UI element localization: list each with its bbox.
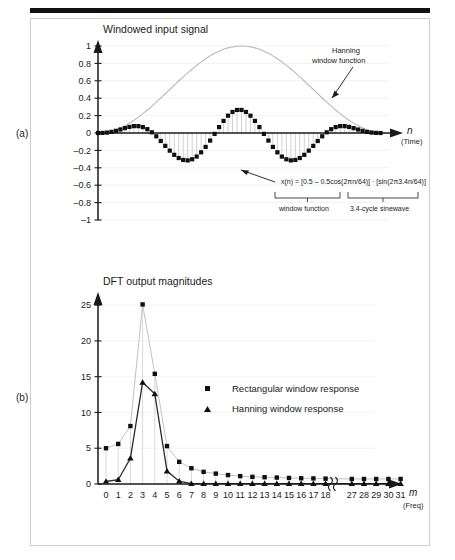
panel-b-svg: 2520151050 01234567891011121314151617182…	[35, 272, 430, 544]
data-point	[360, 129, 364, 133]
rect-marker	[323, 476, 327, 480]
x-tick-label: 27	[347, 490, 357, 500]
data-point	[109, 130, 113, 134]
panel-a-x-axis-sub: (Time)	[401, 137, 423, 146]
data-point	[284, 157, 288, 161]
panel-a-y-tick-labels: 10.80.60.40.20–0.2–0.4–0.6–0.8–1	[73, 41, 91, 225]
rect-marker	[262, 475, 266, 479]
panel-b-x-axis-sub: (Freq)	[403, 501, 424, 510]
data-point	[378, 131, 382, 135]
rect-marker	[153, 372, 157, 376]
x-tick-label: 8	[201, 490, 206, 500]
y-tick-label: –0.6	[73, 180, 91, 190]
data-point	[316, 139, 320, 143]
data-point	[212, 132, 216, 136]
rect-marker	[238, 474, 242, 478]
y-axis-arrowhead	[94, 292, 103, 305]
rect-marker	[275, 475, 279, 479]
figure-root: (a) (b) 10.80.60.40.20–0.2–0.4–0.6–0.8–1…	[0, 0, 455, 560]
rect-marker	[250, 475, 254, 479]
rect-marker	[287, 476, 291, 480]
y-tick-label: 0.6	[78, 76, 91, 86]
data-point	[159, 139, 163, 143]
x-tick-label: 11	[236, 490, 245, 500]
x-tick-label: 13	[260, 490, 270, 500]
rect-marker	[177, 460, 181, 464]
y-tick-label: 15	[81, 372, 91, 382]
y-tick-label: –0.8	[73, 198, 91, 208]
data-point	[141, 125, 145, 129]
x-tick-label: 0	[103, 490, 108, 500]
data-point	[275, 150, 279, 154]
panel-b-x-tick-labels: 01234567891011121314151617182728293031	[103, 490, 405, 500]
hanning-annotation-line1: Hanning	[332, 46, 360, 55]
panel-a-y-axis	[94, 40, 103, 220]
data-point	[347, 125, 351, 129]
hanning-annotation-arrowhead	[332, 91, 339, 99]
data-point	[105, 130, 109, 134]
data-point	[168, 149, 172, 153]
data-point	[289, 158, 293, 162]
data-point	[235, 108, 239, 112]
data-point	[257, 125, 261, 129]
data-point	[132, 124, 136, 128]
x-tick-label: 16	[296, 490, 306, 500]
rect-marker	[214, 471, 218, 475]
panel-b-x-axis	[98, 480, 402, 489]
data-point	[186, 158, 190, 162]
x-tick-label: 1	[116, 490, 121, 500]
panel-a-letter: (a)	[16, 128, 28, 139]
data-point	[100, 131, 104, 135]
data-point	[123, 126, 127, 130]
x-tick-label: 10	[223, 490, 233, 500]
hann-marker	[115, 476, 121, 482]
data-point	[154, 134, 158, 138]
data-point	[127, 125, 131, 129]
y-tick-label: 0.8	[78, 59, 91, 69]
data-point	[374, 131, 378, 135]
x-tick-label: 4	[152, 490, 157, 500]
panel-b-y-tick-labels: 2520151050	[81, 300, 91, 489]
x-tick-label: 17	[308, 490, 318, 500]
rect-marker	[201, 470, 205, 474]
rect-marker	[165, 444, 169, 448]
panel-b-x-axis-name: m	[409, 487, 417, 498]
hanning-response-markers	[103, 379, 404, 486]
y-tick-label: –0.2	[73, 146, 91, 156]
data-point	[244, 110, 248, 114]
panel-a-title: Windowed input signal	[103, 23, 208, 35]
y-tick-label: 0.4	[78, 93, 91, 103]
data-point	[280, 154, 284, 158]
rect-marker	[226, 473, 230, 477]
data-point	[195, 154, 199, 158]
x-tick-label: 14	[272, 490, 282, 500]
data-point	[118, 127, 122, 131]
data-point	[271, 145, 275, 149]
data-point	[302, 153, 306, 157]
legend-label-hanning: Hanning window response	[232, 403, 343, 414]
data-point	[172, 153, 176, 157]
y-tick-label: 0.2	[78, 111, 91, 121]
y-tick-label: 0	[86, 479, 91, 489]
window-function-bracket	[275, 192, 340, 202]
legend-label-rectangular: Rectangular window response	[232, 383, 359, 394]
panel-b-letter: (b)	[16, 392, 28, 403]
data-point	[217, 125, 221, 129]
data-point	[298, 156, 302, 160]
data-point	[262, 132, 266, 136]
legend: Rectangular window response Hanning wind…	[204, 383, 359, 414]
y-tick-label: 5	[86, 443, 91, 453]
x-tick-label: 9	[213, 490, 218, 500]
y-tick-label: 10	[81, 408, 91, 418]
x-tick-label: 29	[371, 490, 381, 500]
data-point	[181, 158, 185, 162]
sinewave-bracket	[348, 192, 418, 202]
panel-a-svg: 10.80.60.40.20–0.2–0.4–0.6–0.8–1 Windowe…	[35, 20, 430, 235]
data-point	[352, 126, 356, 130]
y-tick-label: –0.4	[73, 163, 91, 173]
x-tick-label: 6	[177, 490, 182, 500]
data-point	[365, 130, 369, 134]
rect-marker	[116, 442, 120, 446]
panel-a-plot: 10.80.60.40.20–0.2–0.4–0.6–0.8–1 Windowe…	[35, 20, 430, 235]
data-point	[334, 125, 338, 129]
